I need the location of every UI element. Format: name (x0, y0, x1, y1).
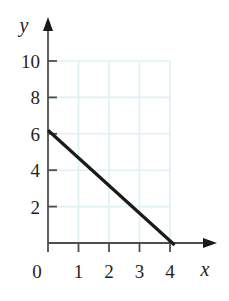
chart-figure: 10 8 6 4 2 0 1 2 3 4 y x (0, 0, 229, 301)
x-axis-label: x (200, 258, 210, 280)
y-tick-label-10: 10 (21, 51, 40, 72)
x-tick-label-1: 1 (74, 261, 84, 282)
y-tick-label-6: 6 (31, 124, 41, 145)
line-chart-svg: 10 8 6 4 2 0 1 2 3 4 y x (0, 0, 229, 301)
y-tick-label-4: 4 (31, 160, 41, 181)
x-tick-label-2: 2 (104, 261, 114, 282)
x-tick-label-3: 3 (135, 261, 145, 282)
x-tick-label-4: 4 (165, 261, 175, 282)
chart-background (0, 0, 229, 301)
y-tick-label-2: 2 (31, 197, 41, 218)
x-tick-label-0: 0 (32, 261, 42, 282)
y-tick-label-8: 8 (31, 87, 41, 108)
y-axis-label: y (18, 14, 29, 37)
